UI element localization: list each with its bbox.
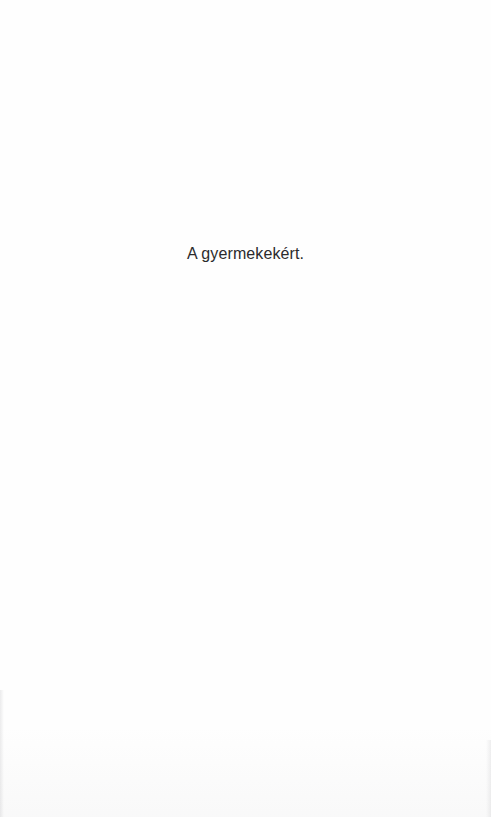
scan-vignette bbox=[0, 727, 491, 817]
scanned-page: A gyermekekért. bbox=[0, 0, 491, 817]
page-bleedthrough-artifact bbox=[28, 806, 448, 814]
outer-edge-shadow bbox=[486, 740, 491, 817]
dedication-text: A gyermekekért. bbox=[187, 243, 304, 265]
dedication-block: A gyermekekért. bbox=[0, 243, 491, 265]
gutter-shadow bbox=[0, 690, 4, 817]
